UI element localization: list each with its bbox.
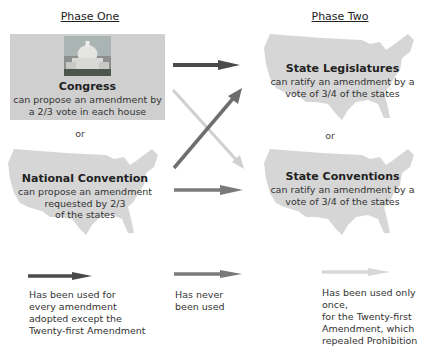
text-line: Amendment, which bbox=[322, 323, 440, 335]
arrow-congress-to-state-legislatures bbox=[173, 60, 240, 70]
legend-item-dark: Has been used for every amendment adopte… bbox=[29, 289, 169, 337]
text-line: Twenty-first Amendment bbox=[29, 325, 169, 337]
legend-arrow-medium bbox=[174, 270, 242, 278]
text-line: Has been used only once, bbox=[322, 287, 440, 311]
arrow-national-convention-to-state-conventions bbox=[174, 185, 243, 195]
text-line: Has never bbox=[175, 289, 255, 301]
text-line: repealed Prohibition bbox=[322, 335, 440, 347]
legend-arrow-dark bbox=[28, 272, 92, 280]
text-line: Has been used for bbox=[29, 289, 169, 301]
text-line: every amendment bbox=[29, 301, 169, 313]
legend-arrow-light bbox=[322, 268, 390, 276]
text-line: been used bbox=[175, 301, 255, 313]
legend-item-medium: Has never been used bbox=[175, 289, 255, 313]
text-line: for the Twenty-first bbox=[322, 311, 440, 323]
text-line: adopted except the bbox=[29, 313, 169, 325]
legend-item-light: Has been used only once, for the Twenty-… bbox=[322, 287, 440, 347]
